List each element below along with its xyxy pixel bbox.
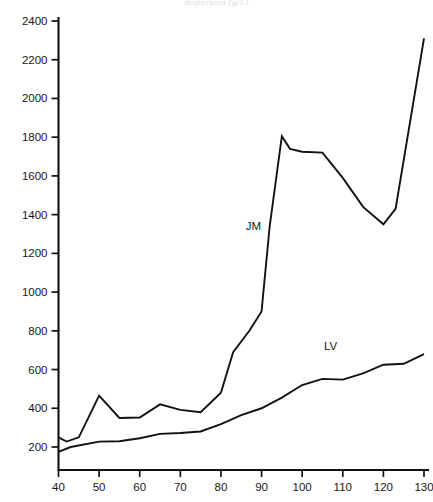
y-tick-label-1000: 1000 <box>22 286 48 298</box>
x-tick-label-40: 40 <box>52 481 65 493</box>
series-label-jm: JM <box>246 220 261 232</box>
x-tick-label-70: 70 <box>174 481 187 493</box>
chart-figure: dispersion (g/L) 20040060080010001200140… <box>0 0 433 502</box>
x-tick-label-110: 110 <box>334 481 352 493</box>
series-line-jm <box>59 38 425 441</box>
x-tick-label-130: 130 <box>414 481 433 493</box>
y-tick-label-1800: 1800 <box>22 131 48 143</box>
x-tick-label-90: 90 <box>255 481 268 493</box>
y-tick-label-200: 200 <box>28 441 47 453</box>
y-tick-label-2400: 2400 <box>22 15 48 27</box>
y-tick-label-1600: 1600 <box>22 170 48 182</box>
y-tick-label-600: 600 <box>28 364 47 376</box>
axis-frame <box>59 18 429 470</box>
data-series-group <box>59 38 425 451</box>
line-chart-plot: 2004006008001000120014001600180020002200… <box>0 0 433 502</box>
series-annotation-labels: JMLV <box>246 220 338 352</box>
x-tick-label-80: 80 <box>215 481 228 493</box>
x-tick-label-60: 60 <box>133 481 146 493</box>
x-axis-tick-labels: 405060708090100110120130 <box>52 481 433 493</box>
y-tick-label-2200: 2200 <box>22 54 48 66</box>
y-tick-label-2000: 2000 <box>22 92 48 104</box>
x-tick-label-100: 100 <box>293 481 312 493</box>
x-tick-label-50: 50 <box>93 481 106 493</box>
series-label-lv: LV <box>324 340 338 352</box>
y-tick-label-1400: 1400 <box>22 209 48 221</box>
y-axis-tick-labels: 2004006008001000120014001600180020002200… <box>22 15 48 453</box>
x-tick-label-120: 120 <box>374 481 393 493</box>
y-tick-label-1200: 1200 <box>22 247 48 259</box>
series-line-lv <box>59 354 425 452</box>
y-tick-label-800: 800 <box>28 325 47 337</box>
y-tick-label-400: 400 <box>28 402 47 414</box>
